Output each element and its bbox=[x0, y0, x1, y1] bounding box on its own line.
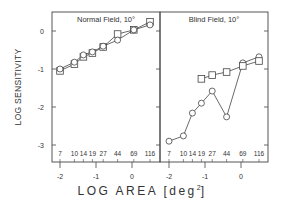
panel-blind-field: Blind Field, 10°-2-107101419274469116 bbox=[160, 12, 268, 180]
area-label: 27 bbox=[100, 150, 108, 157]
square-marker bbox=[114, 31, 121, 38]
square-marker bbox=[209, 72, 216, 79]
circle-marker bbox=[131, 27, 137, 33]
circle-marker bbox=[189, 110, 195, 116]
square-marker bbox=[223, 69, 230, 76]
circle-marker bbox=[209, 88, 215, 94]
area-label: 44 bbox=[223, 150, 231, 157]
area-label: 19 bbox=[89, 150, 97, 157]
square-marker bbox=[256, 58, 263, 65]
y-tick-label: -1 bbox=[38, 66, 44, 73]
panel-title: Normal Field, 10° bbox=[77, 15, 135, 24]
circle-marker bbox=[100, 43, 106, 49]
x-tick-label: -1 bbox=[202, 173, 208, 180]
area-label: 116 bbox=[254, 150, 265, 157]
circle-marker bbox=[71, 59, 77, 65]
area-label: 7 bbox=[167, 150, 171, 157]
circle-marker bbox=[198, 100, 204, 106]
x-tick-label: 0 bbox=[130, 173, 134, 180]
area-label: 7 bbox=[58, 150, 62, 157]
circle-marker bbox=[115, 37, 121, 43]
circle-marker bbox=[147, 22, 153, 28]
panel-title: Blind Field, 10° bbox=[189, 15, 240, 24]
x-tick-label: -2 bbox=[166, 173, 172, 180]
area-label: 10 bbox=[180, 150, 188, 157]
x-tick-label: 0 bbox=[239, 173, 243, 180]
area-label: 44 bbox=[114, 150, 122, 157]
square-marker bbox=[198, 76, 205, 83]
area-label: 14 bbox=[189, 150, 197, 157]
area-label: 27 bbox=[209, 150, 217, 157]
area-label: 14 bbox=[80, 150, 88, 157]
y-tick-label: -3 bbox=[38, 142, 44, 149]
circle-marker bbox=[57, 66, 63, 72]
area-label: 10 bbox=[71, 150, 79, 157]
y-axis-label: LOG SENSITIVITY bbox=[13, 49, 23, 126]
circle-marker bbox=[89, 49, 95, 55]
panel-normal-field: Normal Field, 10°-2-107101419274469116 bbox=[52, 12, 160, 180]
area-label: 69 bbox=[239, 150, 247, 157]
square-marker bbox=[240, 63, 247, 70]
circle-marker bbox=[180, 133, 186, 139]
x-axis-label: LOG AREA [deg2] bbox=[0, 184, 284, 198]
x-tick-label: -2 bbox=[57, 173, 63, 180]
y-tick-label: 0 bbox=[40, 28, 44, 35]
x-tick-label: -1 bbox=[93, 173, 99, 180]
area-label: 116 bbox=[145, 150, 156, 157]
circle-marker bbox=[80, 52, 86, 58]
circle-marker bbox=[224, 114, 230, 120]
circle-marker bbox=[166, 138, 172, 144]
area-label: 69 bbox=[130, 150, 138, 157]
area-label: 19 bbox=[198, 150, 206, 157]
y-tick-label: -2 bbox=[38, 104, 44, 111]
